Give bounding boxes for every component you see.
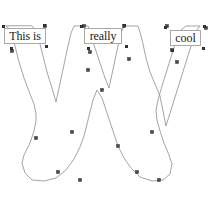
text-label-layer[interactable]: This isreallycool bbox=[0, 0, 215, 219]
label-really[interactable]: really bbox=[84, 28, 122, 44]
label-text: This is bbox=[9, 29, 41, 43]
label-text: really bbox=[90, 29, 117, 43]
label-text: cool bbox=[175, 31, 195, 45]
label-this-is[interactable]: This is bbox=[4, 28, 46, 44]
vector-canvas[interactable]: This isreallycool bbox=[0, 0, 215, 219]
label-cool[interactable]: cool bbox=[170, 30, 201, 46]
